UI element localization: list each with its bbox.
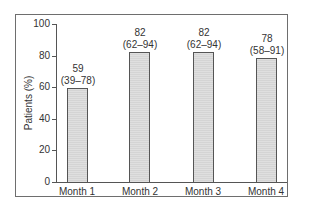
x-category-label: Month 2 — [110, 186, 170, 197]
y-tick-label: 60 — [39, 82, 50, 92]
bar-month-2 — [129, 52, 150, 182]
bar-month-3 — [193, 52, 214, 182]
bar-value-label: 78 — [242, 33, 292, 45]
y-tick-80 — [52, 56, 56, 57]
y-tick-20 — [52, 150, 56, 151]
y-tick-label: 40 — [39, 114, 50, 124]
bar-month-1 — [67, 88, 88, 182]
y-axis-label: Patients (%) — [23, 76, 34, 130]
x-category-label: Month 4 — [236, 186, 296, 197]
y-tick-0 — [52, 182, 56, 183]
bar-ci-label: (39–78) — [53, 75, 103, 87]
bar-value-label: 82 — [115, 27, 165, 39]
bar-ci-label: (62–94) — [115, 39, 165, 51]
y-tick-60 — [52, 87, 56, 88]
y-tick-label: 80 — [39, 51, 50, 61]
x-axis — [56, 182, 287, 183]
bar-value-label: 59 — [53, 63, 103, 75]
x-category-label: Month 1 — [47, 186, 107, 197]
y-tick-label: 100 — [33, 19, 50, 29]
bar-ci-label: (58–91) — [242, 45, 292, 57]
bar-month-4 — [256, 58, 277, 182]
bar-value-label: 82 — [179, 27, 229, 39]
y-axis — [56, 24, 57, 182]
y-tick-40 — [52, 119, 56, 120]
y-tick-label: 20 — [39, 145, 50, 155]
y-tick-100 — [52, 24, 56, 25]
x-category-label: Month 3 — [173, 186, 233, 197]
bar-ci-label: (62–94) — [179, 39, 229, 51]
